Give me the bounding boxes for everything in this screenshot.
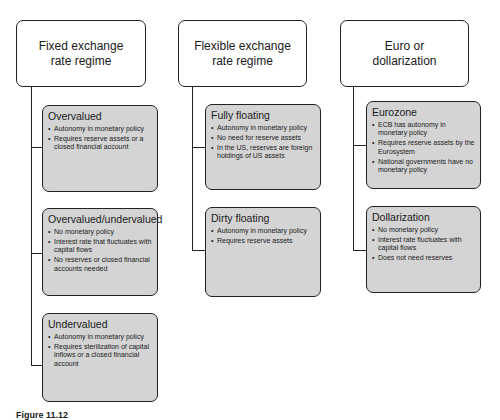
eurozone-title: Eurozone <box>372 106 475 119</box>
bullet: National governments have no monetary po… <box>372 158 475 175</box>
flexible-connector-branch-1 <box>192 147 205 148</box>
overvalued-bullets: Autonomy in monetary policy Requires res… <box>48 125 152 152</box>
bullet: Interest rate fluctuates with capital fl… <box>372 236 475 253</box>
dollarization-title: Dollarization <box>372 211 475 224</box>
overvalued-undervalued-box: Overvalued/undervalued No monetary polic… <box>42 208 158 296</box>
bullet: Autonomy in monetary policy <box>211 227 315 235</box>
figure-caption: Figure 11.12 <box>16 410 68 420</box>
overvalued-title: Overvalued <box>48 110 152 123</box>
bullet: No monetary policy <box>372 226 475 234</box>
eurozone-bullets: ECB has autonomy in monetary policy Requ… <box>372 121 475 174</box>
overvalued-undervalued-bullets: No monetary policy Interest rate that fl… <box>48 228 152 273</box>
undervalued-title: Undervalued <box>48 318 152 331</box>
flexible-regime-title-line2: rate regime <box>194 54 291 69</box>
euro-connector-branch-2 <box>353 250 366 251</box>
bullet: No reserves or closed financial accounts… <box>48 256 152 273</box>
bullet: In the US, reserves are foreign holdings… <box>211 144 315 161</box>
overvalued-undervalued-title: Overvalued/undervalued <box>48 213 152 226</box>
euro-dollarization-title-line1: Euro or <box>372 39 436 54</box>
flexible-connector-branch-2 <box>192 250 205 251</box>
dirty-floating-box: Dirty floating Autonomy in monetary poli… <box>205 207 321 297</box>
dirty-floating-bullets: Autonomy in monetary policy Requires res… <box>211 227 315 245</box>
fixed-connector-branch-1 <box>31 147 42 148</box>
euro-connector-vertical <box>353 87 354 251</box>
dollarization-bullets: No monetary policy Interest rate fluctua… <box>372 226 475 263</box>
bullet: Requires reserve assets by the Eurosyste… <box>372 139 475 156</box>
fixed-regime-title-line1: Fixed exchange <box>39 39 124 54</box>
fixed-connector-vertical <box>31 87 32 366</box>
fixed-regime-box: Fixed exchange rate regime <box>16 20 146 87</box>
eurozone-box: Eurozone ECB has autonomy in monetary po… <box>366 101 481 189</box>
fully-floating-box: Fully floating Autonomy in monetary poli… <box>205 104 321 190</box>
bullet: Does not need reserves <box>372 254 475 262</box>
bullet: Requires reserve assets <box>211 237 315 245</box>
bullet: ECB has autonomy in monetary policy <box>372 121 475 138</box>
overvalued-box: Overvalued Autonomy in monetary policy R… <box>42 105 158 192</box>
flexible-regime-box: Flexible exchange rate regime <box>178 20 307 87</box>
bullet: Autonomy in monetary policy <box>48 125 152 133</box>
flexible-regime-title-line1: Flexible exchange <box>194 39 291 54</box>
fixed-connector-branch-2 <box>31 253 42 254</box>
fully-floating-title: Fully floating <box>211 109 315 122</box>
euro-dollarization-box: Euro or dollarization <box>340 20 469 87</box>
bullet: Autonomy in monetary policy <box>48 333 152 341</box>
bullet: Requires sterilization of capital inflow… <box>48 343 152 368</box>
undervalued-box: Undervalued Autonomy in monetary policy … <box>42 313 158 402</box>
undervalued-bullets: Autonomy in monetary policy Requires ste… <box>48 333 152 368</box>
fully-floating-bullets: Autonomy in monetary policy No need for … <box>211 124 315 161</box>
bullet: Requires reserve assets or a closed fina… <box>48 135 152 152</box>
fixed-connector-branch-3 <box>31 365 42 366</box>
fixed-regime-title-line2: rate regime <box>39 54 124 69</box>
bullet: No monetary policy <box>48 228 152 236</box>
dirty-floating-title: Dirty floating <box>211 212 315 225</box>
bullet: Autonomy in monetary policy <box>211 124 315 132</box>
bullet: Interest rate that fluctuates with capit… <box>48 238 152 255</box>
euro-dollarization-title-line2: dollarization <box>372 54 436 69</box>
bullet: No need for reserve assets <box>211 134 315 142</box>
flexible-connector-vertical <box>192 87 193 251</box>
euro-connector-branch-1 <box>353 145 366 146</box>
dollarization-box: Dollarization No monetary policy Interes… <box>366 206 481 293</box>
